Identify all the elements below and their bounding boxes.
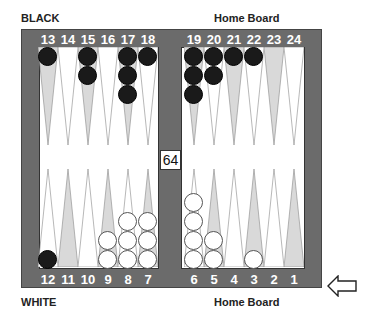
point-number-5: 5 bbox=[204, 272, 224, 287]
checker-black[interactable] bbox=[38, 47, 57, 66]
checker-white[interactable] bbox=[184, 212, 203, 231]
checker-black[interactable] bbox=[118, 66, 137, 85]
point-number-15: 15 bbox=[78, 32, 98, 47]
point-number-19: 19 bbox=[184, 32, 204, 47]
checker-black[interactable] bbox=[78, 47, 97, 66]
checker-white[interactable] bbox=[98, 250, 117, 269]
point-2[interactable] bbox=[264, 167, 284, 267]
point-number-14: 14 bbox=[58, 32, 78, 47]
checker-white[interactable] bbox=[204, 231, 223, 250]
point-number-17: 17 bbox=[118, 32, 138, 47]
point-10[interactable] bbox=[78, 167, 98, 267]
point-number-9: 9 bbox=[98, 272, 118, 287]
checker-white[interactable] bbox=[204, 250, 223, 269]
point-number-12: 12 bbox=[38, 272, 58, 287]
checker-black[interactable] bbox=[204, 47, 223, 66]
checker-black[interactable] bbox=[138, 47, 157, 66]
point-number-22: 22 bbox=[244, 32, 264, 47]
point-number-7: 7 bbox=[138, 272, 158, 287]
top-home-board-label: Home Board bbox=[214, 12, 279, 24]
checker-white[interactable] bbox=[184, 250, 203, 269]
checker-white[interactable] bbox=[184, 231, 203, 250]
point-23[interactable] bbox=[264, 47, 284, 147]
checker-black[interactable] bbox=[184, 66, 203, 85]
checker-white[interactable] bbox=[118, 231, 137, 250]
point-number-4: 4 bbox=[224, 272, 244, 287]
checker-black[interactable] bbox=[118, 85, 137, 104]
checker-white[interactable] bbox=[98, 231, 117, 250]
checker-black[interactable] bbox=[244, 47, 263, 66]
checker-white[interactable] bbox=[138, 250, 157, 269]
point-number-13: 13 bbox=[38, 32, 58, 47]
point-number-1: 1 bbox=[284, 272, 304, 287]
point-16[interactable] bbox=[98, 47, 118, 147]
arrow-left-icon bbox=[327, 275, 357, 297]
checker-black[interactable] bbox=[38, 250, 57, 269]
point-number-23: 23 bbox=[264, 32, 284, 47]
point-4[interactable] bbox=[224, 167, 244, 267]
checker-white[interactable] bbox=[118, 212, 137, 231]
point-number-24: 24 bbox=[284, 32, 304, 47]
point-number-18: 18 bbox=[138, 32, 158, 47]
point-number-16: 16 bbox=[98, 32, 118, 47]
point-number-3: 3 bbox=[244, 272, 264, 287]
point-number-10: 10 bbox=[78, 272, 98, 287]
checker-white[interactable] bbox=[118, 250, 137, 269]
point-1[interactable] bbox=[284, 167, 304, 267]
white-player-label: WHITE bbox=[21, 296, 56, 308]
point-number-20: 20 bbox=[204, 32, 224, 47]
point-number-8: 8 bbox=[118, 272, 138, 287]
point-14[interactable] bbox=[58, 47, 78, 147]
checker-white[interactable] bbox=[138, 212, 157, 231]
checker-black[interactable] bbox=[118, 47, 137, 66]
black-player-label: BLACK bbox=[21, 12, 60, 24]
point-number-2: 2 bbox=[264, 272, 284, 287]
point-24[interactable] bbox=[284, 47, 304, 147]
checker-black[interactable] bbox=[224, 47, 243, 66]
checker-black[interactable] bbox=[204, 66, 223, 85]
point-11[interactable] bbox=[58, 167, 78, 267]
point-number-6: 6 bbox=[184, 272, 204, 287]
point-number-21: 21 bbox=[224, 32, 244, 47]
checker-black[interactable] bbox=[184, 47, 203, 66]
point-number-11: 11 bbox=[58, 272, 78, 287]
checker-black[interactable] bbox=[78, 66, 97, 85]
bottom-home-board-label: Home Board bbox=[214, 296, 279, 308]
checker-white[interactable] bbox=[184, 193, 203, 212]
checker-white[interactable] bbox=[138, 231, 157, 250]
doubling-cube[interactable]: 64 bbox=[160, 150, 181, 170]
checker-white[interactable] bbox=[244, 250, 263, 269]
checker-black[interactable] bbox=[184, 85, 203, 104]
